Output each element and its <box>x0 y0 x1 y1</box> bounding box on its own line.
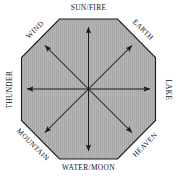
direction-label-west: THUNDER <box>6 62 13 118</box>
direction-label-east: LAKE <box>164 62 171 118</box>
octagon-diagram: SUN/FIRE EARTH LAKE HEAVEN WATER/MOON MO… <box>0 0 177 178</box>
direction-label-south: WATER/MOON <box>0 164 177 171</box>
octagon-diagram-canvas <box>0 0 177 178</box>
direction-label-north: SUN/FIRE <box>0 4 177 11</box>
